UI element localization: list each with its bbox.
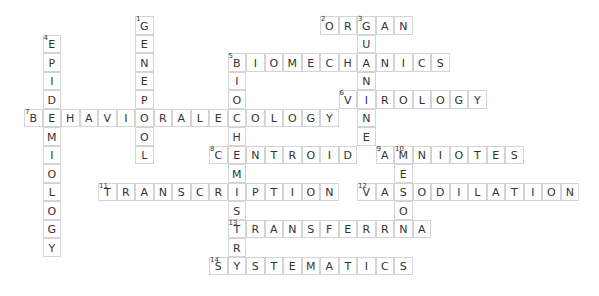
crossword-cell[interactable]: L xyxy=(413,90,432,109)
crossword-cell[interactable]: E xyxy=(339,220,358,239)
crossword-cell[interactable]: U xyxy=(357,35,376,54)
crossword-cell[interactable]: I xyxy=(117,109,136,128)
crossword-cell[interactable]: O xyxy=(431,90,450,109)
crossword-cell[interactable]: O xyxy=(413,183,432,202)
crossword-cell[interactable]: N xyxy=(376,53,395,72)
crossword-cell[interactable]: I xyxy=(524,183,543,202)
crossword-cell[interactable]: 13T xyxy=(228,220,247,239)
crossword-cell[interactable]: 6V xyxy=(339,90,358,109)
crossword-cell[interactable]: Y xyxy=(320,109,339,128)
crossword-cell[interactable]: O xyxy=(283,109,302,128)
crossword-cell[interactable]: 5B xyxy=(228,53,247,72)
crossword-cell[interactable]: I xyxy=(320,146,339,165)
crossword-cell[interactable]: P xyxy=(135,90,154,109)
crossword-cell[interactable]: 11T xyxy=(98,183,117,202)
crossword-cell[interactable]: T xyxy=(265,146,284,165)
crossword-cell[interactable]: 14S xyxy=(209,257,228,276)
crossword-cell[interactable]: M xyxy=(228,164,247,183)
crossword-cell[interactable]: S xyxy=(172,183,191,202)
crossword-cell[interactable]: M xyxy=(283,53,302,72)
crossword-cell[interactable]: R xyxy=(283,146,302,165)
crossword-cell[interactable]: H xyxy=(228,127,247,146)
crossword-cell[interactable]: N xyxy=(413,146,432,165)
crossword-cell[interactable]: E xyxy=(135,35,154,54)
crossword-cell[interactable]: I xyxy=(228,72,247,91)
crossword-cell[interactable]: G xyxy=(450,90,469,109)
crossword-cell[interactable]: I xyxy=(283,183,302,202)
crossword-cell[interactable]: C xyxy=(191,183,210,202)
crossword-cell[interactable]: S xyxy=(505,146,524,165)
crossword-cell[interactable]: 9A xyxy=(376,146,395,165)
crossword-cell[interactable]: P xyxy=(246,183,265,202)
crossword-cell[interactable]: O xyxy=(302,146,321,165)
crossword-cell[interactable]: A xyxy=(487,183,506,202)
crossword-cell[interactable]: D xyxy=(339,146,358,165)
crossword-cell[interactable]: I xyxy=(431,146,450,165)
crossword-cell[interactable]: A xyxy=(320,257,339,276)
crossword-cell[interactable]: E xyxy=(394,164,413,183)
crossword-cell[interactable]: P xyxy=(43,53,62,72)
crossword-cell[interactable]: A xyxy=(265,220,284,239)
crossword-cell[interactable]: R xyxy=(209,183,228,202)
crossword-cell[interactable]: A xyxy=(357,53,376,72)
crossword-cell[interactable]: 3G xyxy=(357,16,376,35)
crossword-cell[interactable]: I xyxy=(43,146,62,165)
crossword-cell[interactable]: R xyxy=(117,183,136,202)
crossword-cell[interactable]: I xyxy=(357,257,376,276)
crossword-cell[interactable]: G xyxy=(302,109,321,128)
crossword-cell[interactable]: S xyxy=(246,257,265,276)
crossword-cell[interactable]: Y xyxy=(468,90,487,109)
crossword-cell[interactable]: T xyxy=(265,183,284,202)
crossword-cell[interactable]: T xyxy=(505,183,524,202)
crossword-cell[interactable]: T xyxy=(339,257,358,276)
crossword-cell[interactable]: C xyxy=(376,257,395,276)
crossword-cell[interactable]: R xyxy=(154,109,173,128)
crossword-cell[interactable]: N xyxy=(154,183,173,202)
crossword-cell[interactable]: R xyxy=(339,16,358,35)
crossword-cell[interactable]: L xyxy=(191,109,210,128)
crossword-cell[interactable]: N xyxy=(320,183,339,202)
crossword-cell[interactable]: 1G xyxy=(135,16,154,35)
crossword-cell[interactable]: C xyxy=(320,53,339,72)
crossword-cell[interactable]: I xyxy=(450,183,469,202)
crossword-cell[interactable]: H xyxy=(339,53,358,72)
crossword-cell[interactable]: C xyxy=(228,109,247,128)
crossword-cell[interactable]: L xyxy=(265,109,284,128)
crossword-cell[interactable]: L xyxy=(468,183,487,202)
crossword-cell[interactable]: N xyxy=(357,109,376,128)
crossword-cell[interactable]: 4E xyxy=(43,35,62,54)
crossword-cell[interactable]: A xyxy=(135,183,154,202)
crossword-cell[interactable]: 2O xyxy=(320,16,339,35)
crossword-cell[interactable]: D xyxy=(43,90,62,109)
crossword-cell[interactable]: S xyxy=(394,257,413,276)
crossword-cell[interactable]: O xyxy=(228,90,247,109)
crossword-cell[interactable]: E xyxy=(228,146,247,165)
crossword-cell[interactable]: O xyxy=(135,109,154,128)
crossword-cell[interactable]: O xyxy=(542,183,561,202)
crossword-cell[interactable]: 10M xyxy=(394,146,413,165)
crossword-cell[interactable]: S xyxy=(302,220,321,239)
crossword-cell[interactable]: N xyxy=(246,146,265,165)
crossword-cell[interactable]: M xyxy=(302,257,321,276)
crossword-cell[interactable]: S xyxy=(431,53,450,72)
crossword-cell[interactable]: R xyxy=(376,220,395,239)
crossword-cell[interactable]: A xyxy=(376,16,395,35)
crossword-cell[interactable]: N xyxy=(135,53,154,72)
crossword-cell[interactable]: N xyxy=(561,183,580,202)
crossword-cell[interactable]: O xyxy=(450,146,469,165)
crossword-cell[interactable]: N xyxy=(394,16,413,35)
crossword-cell[interactable]: E xyxy=(283,257,302,276)
crossword-cell[interactable]: E xyxy=(43,109,62,128)
crossword-cell[interactable]: E xyxy=(135,72,154,91)
crossword-cell[interactable]: I xyxy=(246,53,265,72)
crossword-cell[interactable]: O xyxy=(43,201,62,220)
crossword-cell[interactable]: E xyxy=(302,53,321,72)
crossword-cell[interactable]: O xyxy=(302,183,321,202)
crossword-cell[interactable]: V xyxy=(98,109,117,128)
crossword-cell[interactable]: Y xyxy=(43,238,62,257)
crossword-cell[interactable]: R xyxy=(246,220,265,239)
crossword-cell[interactable]: S xyxy=(394,183,413,202)
crossword-cell[interactable]: I xyxy=(43,72,62,91)
crossword-cell[interactable]: O xyxy=(43,164,62,183)
crossword-cell[interactable]: M xyxy=(43,127,62,146)
